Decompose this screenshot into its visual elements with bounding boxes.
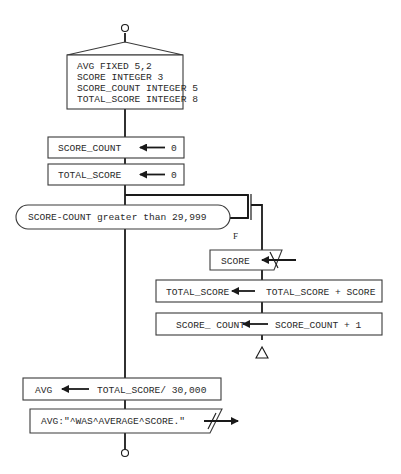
declaration-block: AVG FIXED 5,2 SCORE INTEGER 3 SCORE_COUN…: [67, 42, 198, 109]
increment-target: SCORE_ COUNT: [176, 320, 245, 331]
declaration-line-1: AVG FIXED 5,2: [77, 61, 152, 72]
init-total-score-block: TOTAL_SCORE 0: [48, 164, 184, 185]
compute-avg-block: AVG TOTAL_SCORE/ 30,000: [23, 378, 221, 400]
init-total-score-target: TOTAL_SCORE: [58, 170, 122, 181]
loop-end-triangle-icon: [256, 347, 268, 358]
flowchart: AVG FIXED 5,2 SCORE INTEGER 3 SCORE_COUN…: [0, 0, 401, 474]
init-score-count-value: 0: [171, 143, 177, 154]
output-text: AVG:"^WAS^AVERAGE^SCORE.": [41, 416, 185, 427]
declaration-line-2: SCORE INTEGER 3: [77, 72, 164, 83]
start-connector-icon: [122, 25, 129, 32]
accumulate-block: TOTAL_SCORE TOTAL_SCORE + SCORE: [156, 280, 382, 302]
output-block: AVG:"^WAS^AVERAGE^SCORE.": [30, 409, 238, 433]
init-score-count-target: SCORE_COUNT: [58, 143, 122, 154]
init-total-score-value: 0: [171, 170, 177, 181]
end-connector-icon: [122, 450, 129, 457]
input-score-block: SCORE: [210, 250, 296, 270]
declaration-line-4: TOTAL_SCORE INTEGER 8: [77, 94, 198, 105]
accumulate-target: TOTAL_SCORE: [166, 287, 230, 298]
input-score-text: SCORE: [221, 256, 250, 267]
accumulate-expr: TOTAL_SCORE + SCORE: [266, 287, 376, 298]
increment-block: SCORE_ COUNT SCORE_COUNT + 1: [156, 313, 382, 335]
declaration-line-3: SCORE_COUNT INTEGER 5: [77, 83, 198, 94]
init-score-count-block: SCORE_COUNT 0: [48, 137, 184, 158]
compute-avg-expr: TOTAL_SCORE/ 30,000: [97, 385, 207, 396]
false-label: F: [233, 231, 238, 241]
increment-expr: SCORE_COUNT + 1: [275, 320, 362, 331]
compute-avg-target: AVG: [35, 385, 53, 396]
loop-structure: SCORE-COUNT greater than 29,999 F SCORE …: [16, 194, 382, 358]
loop-condition-text: SCORE-COUNT greater than 29,999: [28, 212, 207, 223]
